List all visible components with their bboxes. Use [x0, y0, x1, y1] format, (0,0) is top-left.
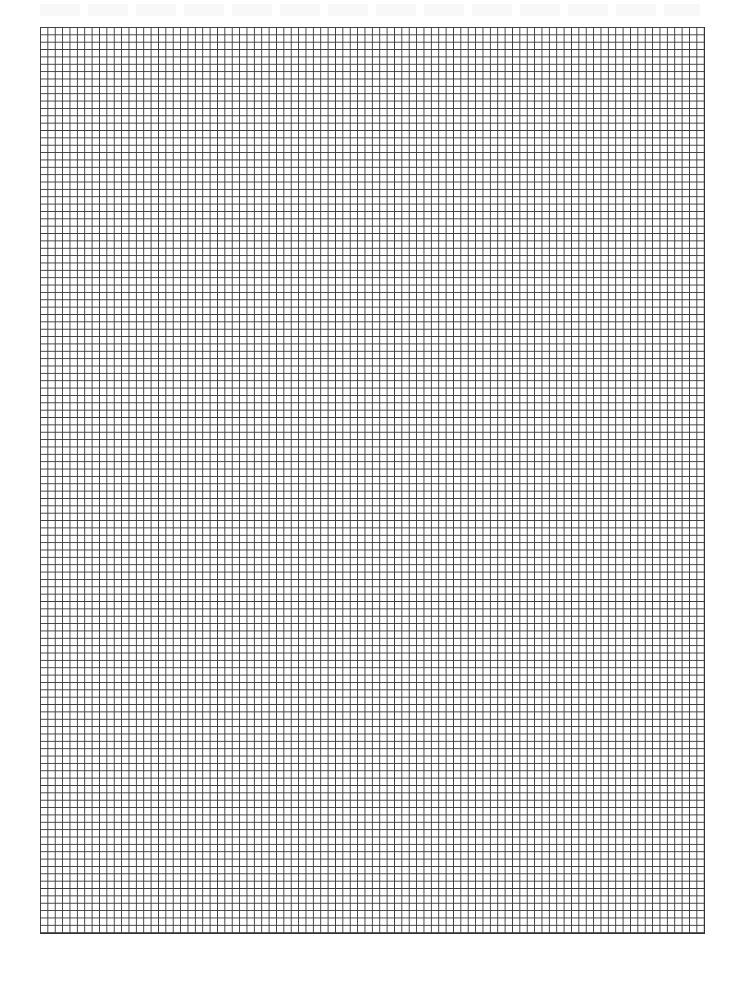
graph-grid [40, 27, 705, 934]
graph-paper-page [0, 0, 739, 983]
faint-bleed-through [40, 4, 700, 16]
